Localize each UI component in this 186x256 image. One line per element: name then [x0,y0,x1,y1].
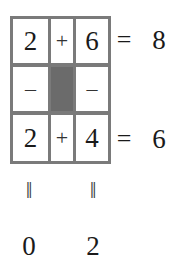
minus-operator: – [87,76,98,102]
puzzle-grid: 2 + 6 – – 2 + 4 [10,16,111,164]
cell-r1-c3: 6 [76,19,108,63]
col1-equals-sign: ‖ [18,178,40,202]
col3-result: 2 [82,232,104,256]
cell-r1-c1: 2 [13,19,48,63]
row3-result: 6 [150,125,168,153]
blocked-cell [51,67,73,111]
col3-equals-sign: ‖ [82,178,104,202]
cell-r3-c1: 2 [13,115,48,161]
cell-r1-c2: + [51,19,73,63]
number: 2 [24,28,38,55]
cell-r3-c2: + [51,115,73,161]
number: 6 [85,28,99,55]
row1-result: 8 [150,26,168,54]
plus-operator: + [56,30,68,52]
row1-equals-sign: = [114,26,134,54]
col1-result: 0 [18,232,40,256]
number: 4 [85,125,99,152]
row3-equals-sign: = [114,125,134,153]
cell-r2-c1: – [13,67,48,111]
number: 2 [24,125,38,152]
cell-r2-c3: – [76,67,108,111]
cell-r3-c3: 4 [76,115,108,161]
minus-operator: – [25,76,36,102]
plus-operator: + [56,127,68,149]
